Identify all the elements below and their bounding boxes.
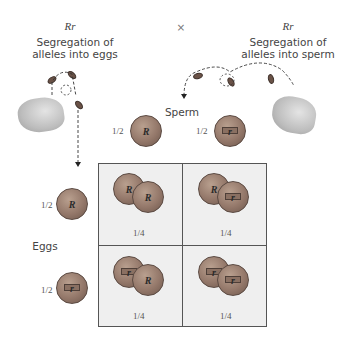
egg-coin-r: r xyxy=(56,272,88,304)
cell-rR-probability: 1/4 xyxy=(133,311,145,321)
egg-coin-R: R xyxy=(56,188,88,220)
cell-RR-coin-2: R xyxy=(132,181,164,213)
cell-rr-probability: 1/4 xyxy=(220,311,232,321)
sperm-axis-label: Sperm xyxy=(160,106,204,118)
cell-Rr-coin-2: r xyxy=(217,181,249,213)
grid-divider-horizontal xyxy=(98,245,267,246)
cell-RR-probability: 1/4 xyxy=(133,228,145,238)
allele-label: r xyxy=(231,192,235,203)
sperm-fraction-R: 1/2 xyxy=(112,126,124,136)
cell-rr-coin-2: r xyxy=(217,264,249,296)
sperm-coin-R: R xyxy=(130,115,162,147)
allele-label: R xyxy=(145,192,152,203)
allele-label: r xyxy=(231,275,235,286)
right-toss-path-icon xyxy=(170,50,310,110)
allele-label: r xyxy=(212,267,216,278)
allele-label: R xyxy=(126,184,133,195)
sperm-coin-r: r xyxy=(214,115,246,147)
left-toss-path-icon xyxy=(0,0,120,175)
right-parent-genotype: Rr xyxy=(268,20,308,32)
right-caption-line1: Segregation of xyxy=(238,36,338,48)
allele-label: r xyxy=(228,126,232,137)
cell-rR-coin-2: R xyxy=(132,264,164,296)
allele-label: R xyxy=(145,275,152,286)
egg-fraction-R: 1/2 xyxy=(41,200,53,210)
sperm-fraction-r: 1/2 xyxy=(196,126,208,136)
allele-label: R xyxy=(69,199,76,210)
eggs-axis-label: Eggs xyxy=(25,240,65,252)
allele-label: R xyxy=(211,184,218,195)
allele-label: r xyxy=(70,283,74,294)
allele-label: r xyxy=(127,267,131,278)
allele-label: R xyxy=(143,126,150,137)
cell-Rr-probability: 1/4 xyxy=(220,228,232,238)
cross-symbol: × xyxy=(174,21,188,33)
egg-fraction-r: 1/2 xyxy=(41,285,53,295)
